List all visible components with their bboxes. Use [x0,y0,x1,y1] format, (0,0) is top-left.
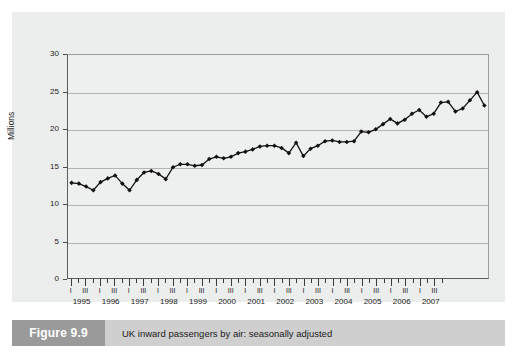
y-axis-tick-label: 10 [35,200,59,208]
data-point-marker [69,181,74,186]
x-axis-quarter-label: I [267,287,281,295]
x-axis-tick [151,279,152,283]
y-axis-tick-label: 15 [35,163,59,171]
data-point-marker [214,155,219,160]
data-point-marker [178,162,183,167]
y-axis-tick-label: 0 [35,275,59,283]
x-axis-tick [442,279,443,283]
chart-panel: Millions 051015202530I1995IIII1996IIII19… [12,12,505,302]
x-axis-tick [325,279,326,283]
x-axis-quarter-label: I [64,287,78,295]
x-axis-tick [209,279,210,283]
y-axis-tick-label: 25 [35,88,59,96]
data-point-marker [243,149,248,154]
x-axis-quarter-label: I [209,287,223,295]
x-axis-quarter-label: III [398,287,412,295]
x-axis-tick [362,279,363,286]
x-axis-tick [296,279,297,283]
x-axis-quarter-label: III [78,287,92,295]
y-axis-tick-label: 30 [35,50,59,58]
x-axis-tick [333,279,334,286]
x-axis-tick [216,279,217,286]
x-axis-tick [304,279,305,286]
x-axis-tick [129,279,130,286]
x-axis-tick [369,279,370,283]
plot-area [67,54,489,279]
x-axis-quarter-label: III [369,287,383,295]
y-axis-tick-label: 5 [35,238,59,246]
x-axis-tick [122,279,123,283]
y-axis-tick [63,129,67,130]
x-axis-quarter-label: I [296,287,310,295]
x-axis-quarter-label: III [311,287,325,295]
x-axis-tick [405,279,406,286]
x-axis-tick [194,279,195,283]
x-axis-tick [253,279,254,283]
data-point-marker [77,181,82,186]
x-axis-tick [434,279,435,286]
x-axis-tick [427,279,428,283]
y-axis-tick [63,204,67,205]
x-axis-tick [100,279,101,286]
x-axis-tick [165,279,166,283]
x-axis-tick [114,279,115,286]
x-axis-tick [158,279,159,286]
figure-caption-bar: Figure 9.9 UK inward passengers by air: … [12,320,505,346]
x-axis-tick [107,279,108,283]
x-axis-tick [420,279,421,286]
y-axis-title: Millions [6,112,16,140]
data-point-marker [236,151,241,156]
x-axis-tick [223,279,224,283]
x-axis-tick [311,279,312,283]
x-axis-tick [245,279,246,286]
x-axis-quarter-label: I [355,287,369,295]
x-axis-tick [143,279,144,286]
x-axis-tick [376,279,377,286]
x-axis-tick [85,279,86,286]
x-axis-tick [282,279,283,283]
data-point-marker [192,163,197,168]
x-axis-quarter-label: III [340,287,354,295]
data-point-marker [345,140,350,145]
x-axis-tick [78,279,79,283]
x-axis-quarter-label: I [180,287,194,295]
y-axis-tick [63,54,67,55]
data-point-marker [185,162,190,167]
x-axis-tick [93,279,94,283]
x-axis-quarter-label: I [238,287,252,295]
x-axis-tick [267,279,268,283]
x-axis-tick [180,279,181,283]
x-axis-quarter-label: I [151,287,165,295]
x-axis-quarter-label: III [253,287,267,295]
figure-caption-text: UK inward passengers by air: seasonally … [122,320,332,346]
x-axis-tick [413,279,414,283]
x-axis-tick [136,279,137,283]
y-axis-tick [63,167,67,168]
x-axis-tick [71,279,72,286]
series-line [72,92,485,190]
series-line-inward-passengers [68,55,488,278]
x-axis-quarter-label: III [136,287,150,295]
data-point-marker [149,169,154,174]
data-point-marker [229,155,234,160]
x-axis-tick [347,279,348,286]
data-point-marker [272,143,277,148]
data-point-marker [482,103,487,108]
x-axis-quarter-label: III [282,287,296,295]
x-axis-tick [318,279,319,286]
x-axis-tick [202,279,203,286]
data-point-marker [221,156,226,161]
x-axis-tick [274,279,275,286]
y-axis-tick-label: 20 [35,125,59,133]
x-axis-tick [260,279,261,286]
data-point-marker [330,138,335,143]
x-axis-tick [391,279,392,286]
x-axis-tick [384,279,385,283]
x-axis-tick [187,279,188,286]
x-axis-tick [238,279,239,283]
y-axis-tick [63,242,67,243]
x-axis-tick [173,279,174,286]
x-axis-quarter-label: I [326,287,340,295]
x-axis-tick [340,279,341,283]
data-point-marker [106,176,111,181]
